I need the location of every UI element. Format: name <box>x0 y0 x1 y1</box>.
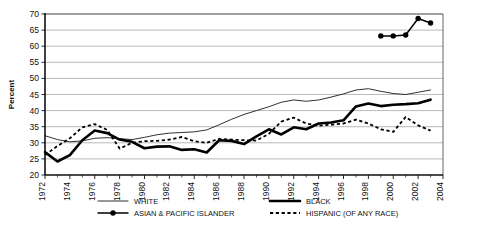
series-black <box>45 100 431 162</box>
x-tick-label: 1978 <box>112 182 122 201</box>
series-line <box>45 89 431 142</box>
series-asian-pacific-islander <box>378 16 433 39</box>
x-tick-label: 1990 <box>261 182 271 201</box>
y-tick-label: 65 <box>30 25 40 35</box>
legend-label: ASIAN & PACIFIC ISLANDER <box>134 209 235 218</box>
x-tick-label: 1986 <box>211 182 221 201</box>
legend-item: WHITE <box>98 197 158 206</box>
series-white <box>45 89 431 142</box>
legend-label: WHITE <box>134 197 158 206</box>
y-tick-label: 60 <box>30 41 40 51</box>
y-tick-label: 55 <box>30 57 40 67</box>
legend-label: HISPANIC (OF ANY RACE) <box>306 209 399 218</box>
series-line <box>45 117 431 155</box>
y-tick-label: 40 <box>30 106 40 116</box>
y-axis-title: Percent <box>7 79 16 109</box>
x-tick-label: 1998 <box>360 182 370 201</box>
y-axis-label: Percent <box>7 79 16 109</box>
x-tick-label: 1996 <box>336 182 346 201</box>
y-tick-label: 45 <box>30 90 40 100</box>
data-series <box>45 16 433 162</box>
legend-label: BLACK <box>306 197 331 206</box>
data-point-marker <box>391 33 396 38</box>
x-tick-label: 2004 <box>435 182 445 201</box>
series-line <box>45 100 431 162</box>
y-tick-label: 50 <box>30 73 40 83</box>
legend-marker <box>110 210 115 215</box>
y-tick-label: 30 <box>30 138 40 148</box>
data-point-marker <box>428 20 433 25</box>
line-chart: 2025303540455055606570 19721974197619781… <box>0 0 480 230</box>
x-tick-label: 2002 <box>410 182 420 201</box>
data-point-marker <box>403 32 408 37</box>
data-point-marker <box>415 16 420 21</box>
x-tick-label: 1974 <box>62 182 72 201</box>
y-axis: 2025303540455055606570 <box>30 9 45 180</box>
x-tick-label: 1992 <box>286 182 296 201</box>
y-tick-label: 35 <box>30 122 40 132</box>
x-tick-label: 1976 <box>87 182 97 201</box>
x-tick-label: 2000 <box>385 182 395 201</box>
y-tick-label: 70 <box>30 9 40 19</box>
x-axis: 1972197419761978198019821984198619881990… <box>37 175 445 201</box>
chart-legend: WHITEBLACKASIAN & PACIFIC ISLANDERHISPAN… <box>98 197 399 218</box>
x-tick-label: 1972 <box>37 182 47 201</box>
legend-item: HISPANIC (OF ANY RACE) <box>270 209 399 218</box>
y-tick-label: 20 <box>30 170 40 180</box>
x-tick-label: 1982 <box>161 182 171 201</box>
data-point-marker <box>378 33 383 38</box>
x-tick-label: 1984 <box>186 182 196 201</box>
legend-item: ASIAN & PACIFIC ISLANDER <box>98 209 235 218</box>
series-hispanic-of-any-race <box>45 117 431 155</box>
x-tick-label: 1988 <box>236 182 246 201</box>
y-tick-label: 25 <box>30 154 40 164</box>
legend-item: BLACK <box>270 197 331 206</box>
chart-page: 2025303540455055606570 19721974197619781… <box>0 0 480 230</box>
